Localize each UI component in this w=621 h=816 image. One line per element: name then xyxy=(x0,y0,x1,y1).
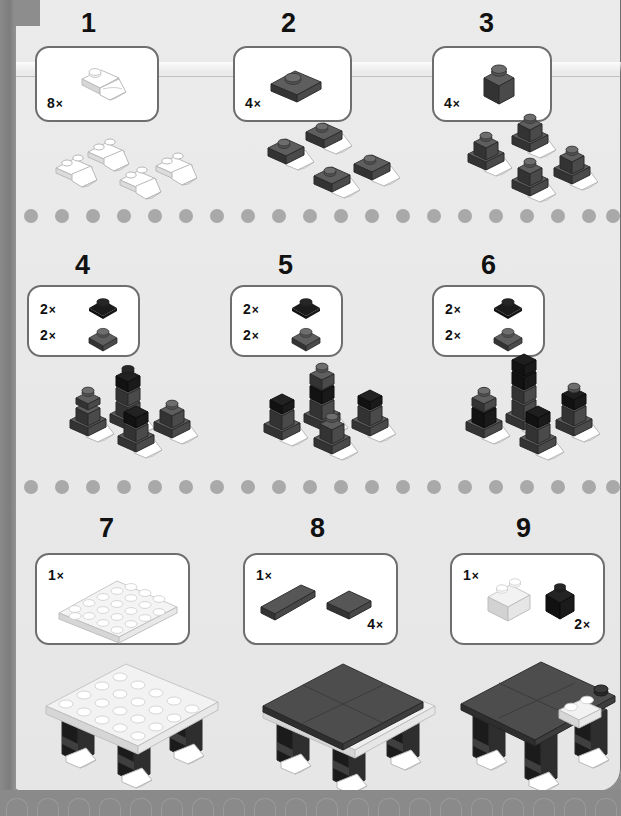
part-qty-6-2: 2× xyxy=(445,327,461,343)
assembly-step-9 xyxy=(455,652,621,812)
part-plate-1x1-dark-gray-icon xyxy=(85,326,125,354)
separator-row-2 xyxy=(14,480,621,496)
part-qty-4-2: 2× xyxy=(40,327,56,343)
assembly-step-7 xyxy=(40,660,230,810)
assembly-step-1 xyxy=(60,128,230,200)
callout-step-5[interactable]: 2× 2× xyxy=(230,285,343,357)
assembly-step-6 xyxy=(460,352,610,468)
callout-step-7[interactable]: 1× xyxy=(35,553,190,645)
part-claw-plate-white-icon xyxy=(70,62,140,108)
part-tile-2x2-dark-gray-icon xyxy=(323,583,385,625)
part-qty-1-1: 8× xyxy=(47,95,63,111)
step-number-2: 2 xyxy=(268,8,308,39)
callout-step-8[interactable]: 1× 4× xyxy=(243,553,398,645)
step-number-8: 8 xyxy=(297,513,337,544)
part-brick-1x2-white-icon xyxy=(482,577,544,627)
assembly-step-3 xyxy=(452,104,618,204)
callout-step-6[interactable]: 2× 2× xyxy=(432,285,545,357)
callout-step-1[interactable]: 8× xyxy=(35,46,159,122)
part-plate-1x1-dark-gray-icon xyxy=(288,326,328,354)
step-number-9: 9 xyxy=(503,513,543,544)
page-bottom-binding-edge xyxy=(0,790,621,816)
step-number-5: 5 xyxy=(265,250,305,281)
callout-step-4[interactable]: 2× 2× xyxy=(27,285,140,357)
step-number-1: 1 xyxy=(68,8,108,39)
part-qty-9-1: 1× xyxy=(463,567,479,583)
part-plate-1x2-dark-gray-icon xyxy=(265,64,331,108)
step-number-3: 3 xyxy=(466,8,506,39)
separator-row-1 xyxy=(14,209,621,225)
step-number-7: 7 xyxy=(86,513,126,544)
part-qty-6-1: 2× xyxy=(445,301,461,317)
part-tile-1x4-dark-gray-icon xyxy=(257,581,329,627)
assembly-step-5 xyxy=(258,358,408,468)
assembly-step-2 xyxy=(258,118,428,204)
callout-step-2[interactable]: 4× xyxy=(233,46,352,122)
assembly-step-4 xyxy=(60,358,210,468)
part-plate-1x1-black-icon xyxy=(85,296,125,322)
part-qty-2-1: 4× xyxy=(245,95,261,111)
part-brick-1x1-black-icon xyxy=(540,577,586,627)
step-number-4: 4 xyxy=(62,250,102,281)
part-qty-5-1: 2× xyxy=(243,301,259,317)
page-left-binding-edge xyxy=(0,0,16,816)
part-plate-1x1-dark-gray-icon xyxy=(490,326,530,354)
part-qty-5-2: 2× xyxy=(243,327,259,343)
part-qty-4-1: 2× xyxy=(40,301,56,317)
callout-step-9[interactable]: 1× 2× xyxy=(450,553,605,645)
part-plate-4x6-white-icon xyxy=(53,573,185,643)
page-top-corner-fold xyxy=(14,0,40,26)
instruction-page: 1 2 3 4 5 6 7 8 9 8× xyxy=(0,0,621,816)
assembly-step-8 xyxy=(255,660,445,810)
part-plate-1x1-black-icon xyxy=(490,296,530,322)
part-plate-1x1-black-icon xyxy=(288,296,328,322)
step-number-6: 6 xyxy=(468,250,508,281)
